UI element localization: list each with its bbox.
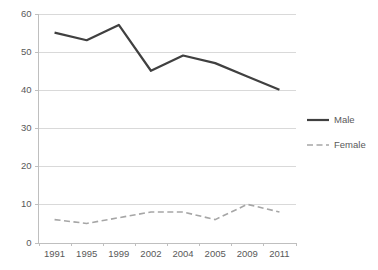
y-tick-label: 10 (21, 198, 32, 209)
y-tick-label: 40 (21, 84, 32, 95)
legend-label-female: Female (334, 139, 366, 150)
x-tick-label: 1999 (108, 248, 129, 259)
x-tick-label: 2005 (205, 248, 226, 259)
axes-group (35, 14, 297, 247)
y-tick-label: 20 (21, 160, 32, 171)
legend-label-male: Male (334, 114, 355, 125)
x-tick-label: 1991 (44, 248, 65, 259)
x-tick-label: 2004 (172, 248, 193, 259)
y-tick-label: 30 (21, 122, 32, 133)
y-tick-label: 50 (21, 46, 32, 57)
gridlines-group (39, 15, 296, 244)
x-tick-label: 2009 (237, 248, 258, 259)
series-line-male (55, 25, 280, 90)
x-axis-tick-labels: 19911995199920022004200520092011 (44, 248, 290, 259)
chart-canvas: 0102030405060 19911995199920022004200520… (0, 0, 378, 270)
chart-legend: MaleFemale (307, 114, 366, 150)
y-tick-label: 60 (21, 8, 32, 19)
data-series-group (55, 25, 280, 223)
y-tick-label: 0 (26, 237, 31, 248)
series-line-female (55, 204, 280, 223)
y-axis-tick-labels: 0102030405060 (21, 8, 32, 248)
x-tick-label: 2011 (269, 248, 289, 259)
line-chart: 0102030405060 19911995199920022004200520… (0, 0, 378, 270)
x-tick-label: 2002 (140, 248, 161, 259)
x-tick-label: 1995 (76, 248, 97, 259)
